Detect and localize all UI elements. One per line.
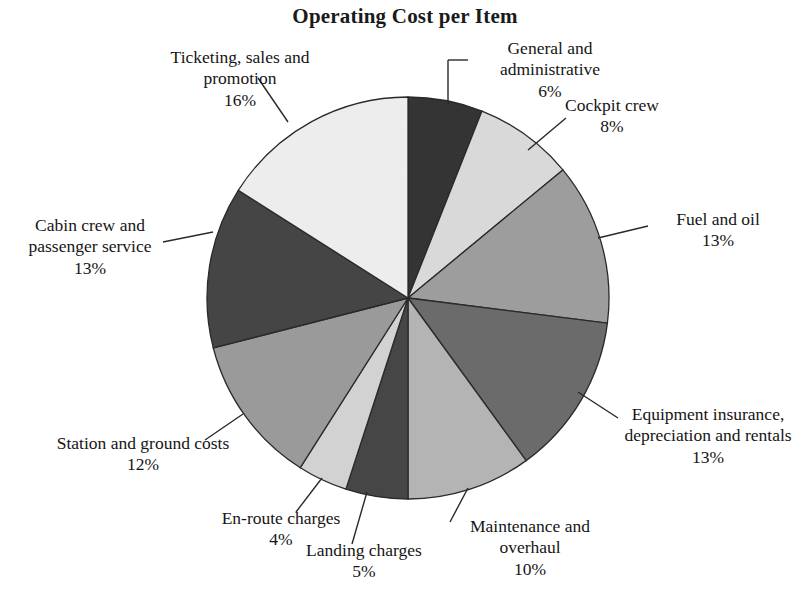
label-maintenance-line2: overhaul [440,537,620,558]
pie-chart-svg [0,0,810,606]
label-maintenance-percent: 10% [440,559,620,580]
label-station-line1: Station and ground costs [18,433,268,454]
label-cockpit-percent: 8% [540,116,684,137]
label-enroute-percent: 4% [196,529,366,550]
label-enroute-line1: En-route charges [196,508,366,529]
label-maintenance-line1: Maintenance and [440,516,620,537]
label-maintenance-and-overhaul: Maintenance and overhaul 10% [440,516,620,580]
label-general-line1: General and [440,38,660,59]
label-general-and-administrative: General and administrative 6% [440,38,660,102]
pie-chart-figure: Operating Cost per Item General and admi… [0,0,810,606]
label-station-and-ground-costs: Station and ground costs 12% [18,433,268,476]
label-en-route-charges: En-route charges 4% [196,508,366,551]
label-equipment-insurance: Equipment insurance, depreciation and re… [606,404,810,468]
label-ticketing-line1: Ticketing, sales and [140,47,340,68]
label-equipment-percent: 13% [606,447,810,468]
label-fuel-line1: Fuel and oil [648,209,788,230]
label-cabin-crew-and-passenger-service: Cabin crew and passenger service 13% [10,215,170,279]
label-cabin-percent: 13% [10,258,170,279]
leader-line-cabin [163,232,213,242]
label-ticketing-percent: 16% [140,90,340,111]
label-equipment-line1: Equipment insurance, [606,404,810,425]
label-ticketing-line2: promotion [140,68,340,89]
label-ticketing-sales-and-promotion: Ticketing, sales and promotion 16% [140,47,340,111]
label-cockpit-line1: Cockpit crew [540,95,684,116]
label-fuel-percent: 13% [648,230,788,251]
label-landing-percent: 5% [282,561,446,582]
label-cabin-line2: passenger service [10,236,170,257]
leader-line-fuel [598,226,648,238]
label-general-line2: administrative [440,59,660,80]
label-cabin-line1: Cabin crew and [10,215,170,236]
leader-line-enroute [296,478,322,512]
label-cockpit-crew: Cockpit crew 8% [540,95,684,138]
label-station-percent: 12% [18,454,268,475]
label-equipment-line2: depreciation and rentals [606,425,810,446]
label-fuel-and-oil: Fuel and oil 13% [648,209,788,252]
